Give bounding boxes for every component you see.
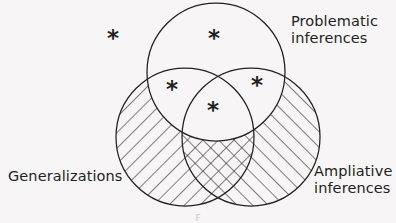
marker-problematic-and-ampliative: * xyxy=(251,72,263,98)
label-ampliative-inferences: Ampliative inferences xyxy=(314,163,392,196)
label-ampliative-line2: inferences xyxy=(314,180,390,196)
label-problematic-line1: Problematic xyxy=(291,13,378,29)
marker-outside-all-sets: * xyxy=(107,25,119,51)
marker-all-three-sets: * xyxy=(207,97,219,123)
venn-diagram-figure: * * * * * Problematic inferences General… xyxy=(0,0,396,223)
caption-stub-text: F xyxy=(195,213,200,223)
label-problematic-line2: inferences xyxy=(291,30,367,46)
venn-diagram-canvas: * * * * * Problematic inferences General… xyxy=(0,0,396,223)
label-problematic-inferences: Problematic inferences xyxy=(291,13,378,46)
marker-problematic-and-generalizations: * xyxy=(166,76,178,102)
label-ampliative-line1: Ampliative xyxy=(314,163,392,179)
label-generalizations: Generalizations xyxy=(8,168,123,184)
label-generalizations-line1: Generalizations xyxy=(8,168,123,184)
marker-problematic-only: * xyxy=(208,25,220,51)
